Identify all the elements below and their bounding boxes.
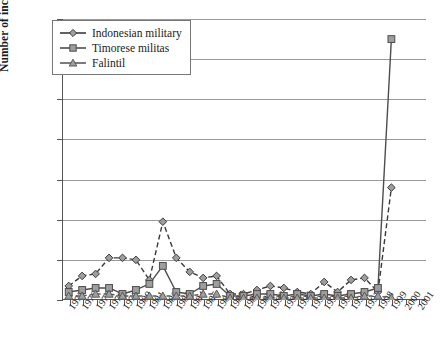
y-tick	[57, 300, 63, 301]
data-point-square	[159, 262, 166, 269]
legend-diamond-icon	[58, 26, 88, 40]
data-point-square	[375, 285, 382, 292]
data-point-diamond	[388, 184, 396, 192]
data-point-diamond	[199, 274, 207, 282]
data-point-diamond	[159, 218, 167, 226]
data-point-diamond	[105, 254, 113, 262]
legend-label: Indonesian military	[88, 27, 182, 39]
data-point-square	[213, 281, 220, 288]
data-point-diamond	[280, 284, 288, 292]
incidents-line-chart: Number of incidents 020406080100120140 1…	[0, 0, 444, 345]
legend: Indonesian militaryTimorese militasFalin…	[52, 20, 191, 75]
data-point-triangle	[387, 294, 395, 300]
legend-item[interactable]: Timorese militas	[58, 40, 182, 55]
data-point-square	[70, 44, 76, 50]
legend-label: Falintil	[88, 57, 125, 69]
series-line	[69, 188, 392, 294]
data-point-square	[200, 283, 207, 290]
legend-label: Timorese militas	[88, 42, 169, 54]
data-point-triangle	[199, 290, 207, 297]
data-point-diamond	[119, 254, 127, 262]
legend-square-icon	[58, 41, 88, 55]
data-point-diamond	[132, 256, 140, 264]
y-axis-title: Number of incidents	[0, 0, 10, 96]
data-point-square	[146, 281, 153, 288]
data-point-diamond	[69, 29, 76, 36]
data-point-diamond	[78, 272, 86, 280]
data-point-square	[388, 36, 395, 43]
data-point-diamond	[267, 282, 275, 290]
legend-item[interactable]: Indonesian military	[58, 25, 182, 40]
legend-item[interactable]: Falintil	[58, 55, 182, 70]
data-point-triangle	[213, 290, 221, 297]
legend-triangle-icon	[58, 56, 88, 70]
